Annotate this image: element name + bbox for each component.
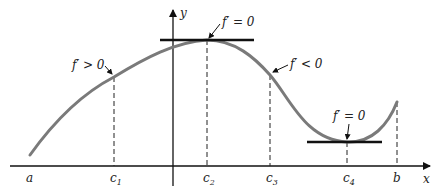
annotation-increasing: f′ > 0	[71, 58, 105, 72]
tick-c1: c1	[110, 171, 122, 187]
arrow-decreasing	[273, 65, 288, 72]
annotation-min: f′ = 0	[332, 109, 366, 123]
x-axis-label: x	[423, 172, 430, 186]
annotation-decreasing: f′ < 0	[289, 57, 323, 71]
annotation-max: f′ = 0	[221, 15, 255, 29]
arrow-max	[209, 24, 220, 38]
y-axis-label: y	[179, 6, 187, 20]
tick-c2: c2	[203, 171, 215, 187]
tick-c4: c4	[343, 171, 355, 187]
tick-a: a	[26, 171, 33, 185]
tick-c3: c3	[266, 171, 278, 187]
derivative-diagram: y x a c1 c2 c3 c4 b f′ > 0 f′ = 0 f′ < 0…	[0, 0, 438, 193]
arrow-min	[347, 124, 349, 139]
tick-b: b	[393, 171, 401, 185]
arrow-increasing	[105, 66, 112, 74]
